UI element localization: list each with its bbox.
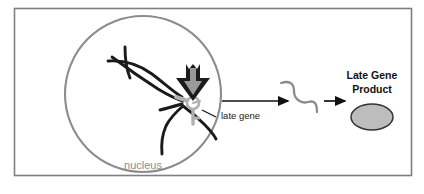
late-gene-expression-diagram: late gene nucleus Late Gene Product	[0, 0, 424, 194]
late-gene-product-label-line2: Product	[352, 83, 392, 95]
figure-background	[0, 0, 424, 194]
late-gene-product-shape	[351, 104, 393, 130]
late-gene-product-label-line1: Late Gene	[347, 69, 398, 81]
late-gene-label: late gene	[221, 110, 260, 121]
nucleus-label: nucleus	[124, 159, 162, 171]
figure-root: late gene nucleus Late Gene Product	[0, 0, 424, 194]
